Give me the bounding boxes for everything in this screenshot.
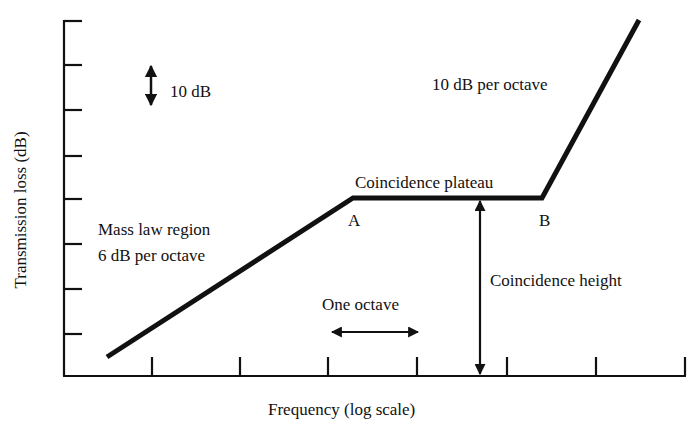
y-axis-label: Transmission loss (dB) (12, 131, 29, 288)
octave-indicator-label: One octave (322, 296, 399, 313)
mass-law-slope-label: 6 dB per octave (98, 247, 205, 264)
y-axis (64, 20, 82, 376)
scale-indicator-label: 10 dB (170, 83, 211, 100)
mass-law-label: Mass law region (98, 221, 210, 238)
steep-slope-label: 10 dB per octave (432, 76, 548, 93)
transmission-loss-diagram (0, 0, 690, 422)
x-axis-label: Frequency (log scale) (268, 401, 415, 418)
coincidence-height-label: Coincidence height (490, 272, 622, 289)
point-a-label: A (348, 212, 360, 229)
plateau-label: Coincidence plateau (355, 174, 493, 191)
point-b-label: B (539, 212, 550, 229)
x-axis (63, 357, 686, 376)
